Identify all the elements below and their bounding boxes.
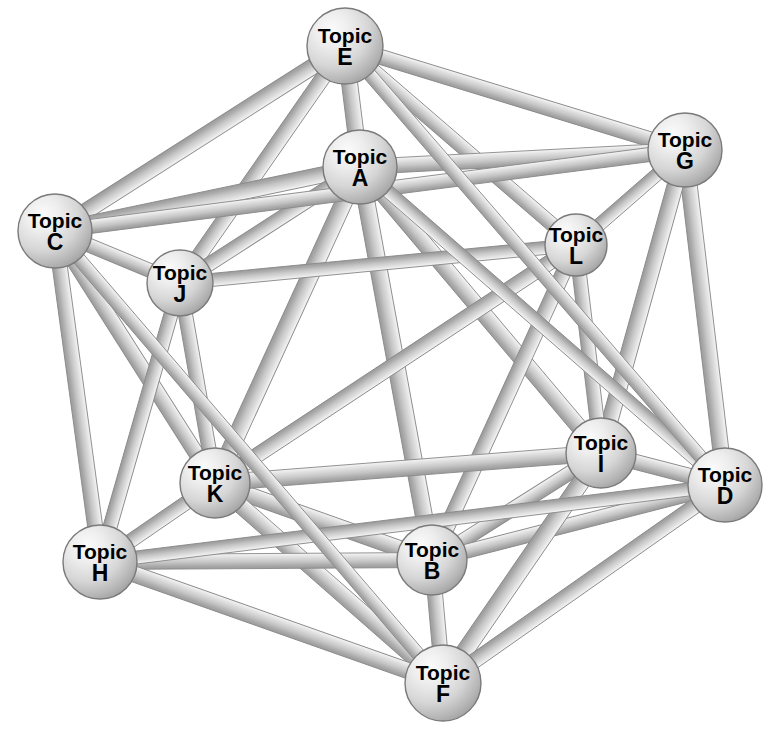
node-sphere [545, 214, 607, 276]
graph-node-h[interactable]: TopicH [63, 525, 137, 599]
node-sphere [18, 194, 92, 268]
graph-node-b[interactable]: TopicB [397, 525, 467, 595]
edge-layer [48, 39, 733, 691]
node-sphere [648, 113, 722, 187]
node-sphere [63, 525, 137, 599]
node-sphere [307, 8, 383, 84]
node-sphere [180, 448, 250, 518]
graph-node-k[interactable]: TopicK [180, 448, 250, 518]
node-sphere [566, 418, 636, 488]
node-sphere [688, 448, 762, 522]
node-sphere [397, 525, 467, 595]
network-canvas: TopicATopicBTopicCTopicDTopicETopicFTopi… [0, 0, 773, 729]
node-sphere [147, 250, 213, 316]
graph-node-f[interactable]: TopicF [405, 645, 481, 721]
graph-node-c[interactable]: TopicC [18, 194, 92, 268]
topic-network-graph: TopicATopicBTopicCTopicDTopicETopicFTopi… [0, 0, 773, 729]
graph-node-l[interactable]: TopicL [545, 214, 607, 276]
graph-node-i[interactable]: TopicI [566, 418, 636, 488]
graph-node-g[interactable]: TopicG [648, 113, 722, 187]
graph-node-e[interactable]: TopicE [307, 8, 383, 84]
graph-node-d[interactable]: TopicD [688, 448, 762, 522]
graph-node-j[interactable]: TopicJ [147, 250, 213, 316]
graph-node-a[interactable]: TopicA [323, 130, 397, 204]
node-sphere [405, 645, 481, 721]
node-sphere [323, 130, 397, 204]
